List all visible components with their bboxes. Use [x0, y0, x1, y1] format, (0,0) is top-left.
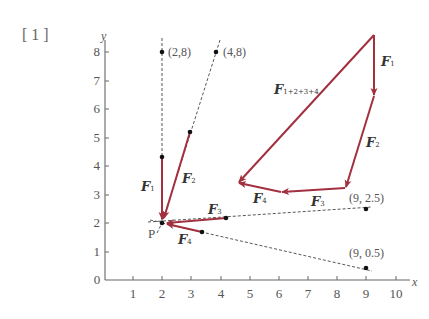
point-2-8 [160, 50, 165, 55]
label-f2-right: F2 [365, 135, 380, 150]
y-tick-6: 6 [94, 101, 101, 116]
label-9-0.5: (9, 0.5) [349, 246, 384, 260]
label-f1-right: F1 [380, 54, 395, 69]
x-tick-4: 4 [218, 286, 225, 301]
y-tick-0: 0 [94, 272, 101, 287]
y-tick-1: 1 [94, 244, 101, 259]
polygon-f3 [282, 188, 345, 192]
force-diagram: 0 1 2 3 4 5 6 7 8 9 10 1 2 3 4 5 6 7 8 y… [0, 0, 429, 319]
label-p: P [148, 226, 155, 241]
point-9-2.5 [364, 207, 369, 212]
x-tick-5: 5 [247, 286, 254, 301]
force-polygon [239, 35, 374, 192]
label-f4-left: F4 [177, 232, 192, 247]
x-axis-label: x [411, 275, 418, 289]
label-resultant: F1+2+3+4 [273, 82, 319, 97]
line-of-action-f3 [148, 207, 372, 222]
label-f3-left: F3 [207, 202, 222, 217]
label-4-8: (4,8) [223, 45, 246, 59]
y-tick-3: 3 [94, 187, 101, 202]
y-tick-4: 4 [94, 158, 101, 173]
label-f4-right: F4 [252, 191, 267, 206]
x-tick-1: 1 [130, 286, 137, 301]
x-tick-8: 8 [334, 286, 341, 301]
label-9-2.5: (9, 2.5) [349, 191, 384, 205]
x-tick-9: 9 [363, 286, 370, 301]
y-tick-7: 7 [94, 73, 101, 88]
x-tick-2: 2 [159, 286, 166, 301]
y-tick-8: 8 [94, 44, 101, 59]
point-4-8 [214, 50, 219, 55]
x-tick-7: 7 [305, 286, 312, 301]
label-2-8: (2,8) [168, 45, 191, 59]
label-f1-left: F1 [140, 179, 155, 194]
y-tick-2: 2 [94, 215, 101, 230]
x-tick-3: 3 [188, 286, 195, 301]
point-p [160, 221, 165, 226]
label-f2-left: F2 [181, 171, 196, 186]
vector-f4 [167, 224, 202, 232]
y-tick-5: 5 [94, 130, 101, 145]
point-9-0.5 [364, 266, 369, 271]
x-tick-10: 10 [390, 286, 403, 301]
label-f3-right: F3 [310, 194, 325, 209]
x-tick-6: 6 [276, 286, 283, 301]
y-axis-label: y [100, 29, 107, 43]
